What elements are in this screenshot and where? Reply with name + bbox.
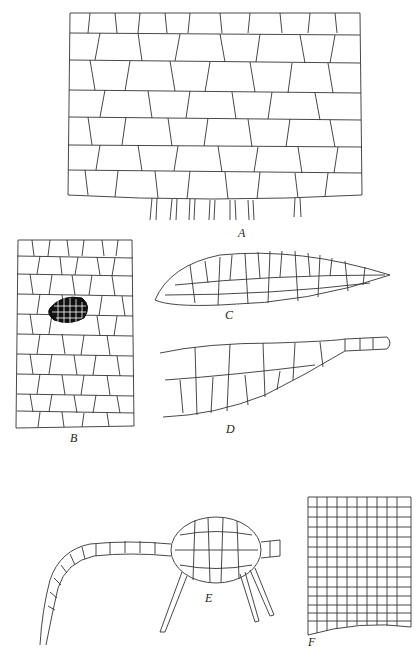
tissue-f-drawing — [305, 495, 415, 640]
panel-label-d: D — [226, 423, 235, 435]
panel-label-e: E — [205, 592, 212, 604]
panel-e: E — [30, 510, 285, 650]
panel-label-f: F — [308, 636, 315, 648]
panel-d: D — [155, 335, 395, 420]
tissue-b-drawing — [12, 236, 137, 431]
panel-b: B — [12, 236, 137, 431]
tissue-e-drawing — [30, 510, 285, 650]
panel-c: C — [150, 245, 395, 310]
panel-label-b: B — [70, 432, 77, 444]
panel-f: F — [305, 495, 415, 640]
tissue-c-drawing — [150, 245, 395, 310]
panel-label-a: A — [238, 227, 245, 239]
tissue-d-drawing — [155, 335, 395, 420]
panel-a: A — [60, 5, 370, 225]
panel-label-c: C — [225, 309, 233, 321]
tissue-a-drawing — [60, 5, 370, 225]
